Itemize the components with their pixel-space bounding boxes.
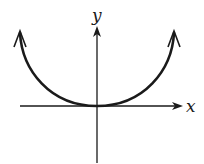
- y-axis-label: y: [91, 5, 102, 25]
- graph: y x: [0, 0, 204, 164]
- x-axis-label: x: [186, 96, 196, 116]
- y-axis: [93, 26, 101, 163]
